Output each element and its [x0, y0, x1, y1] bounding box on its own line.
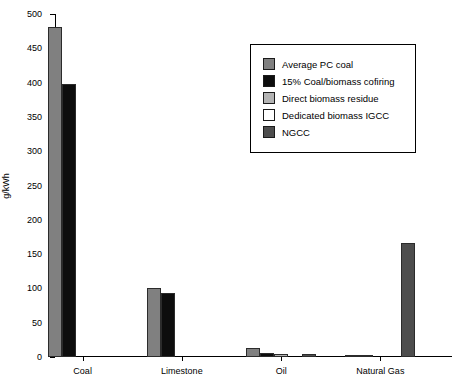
legend-swatch-icon: [263, 109, 275, 121]
legend-item-label: NGCC: [282, 127, 310, 138]
legend-entries: Average PC coal15% Coal/biomass cofiring…: [263, 56, 394, 141]
bar: [48, 27, 62, 357]
legend-swatch-icon: [263, 126, 275, 138]
x-axis-tick-label: Natural Gas: [356, 366, 404, 376]
bar-chart: g/kWh 050100150200250300350400450500 Coa…: [0, 0, 462, 389]
y-axis-tick-label: 500: [27, 9, 42, 19]
legend-swatch-icon: [263, 58, 275, 70]
legend-item: NGCC: [263, 124, 394, 140]
bar: [260, 353, 274, 357]
y-axis-tick-label: 450: [27, 43, 42, 53]
x-axis-tick: [281, 357, 282, 361]
y-axis-tick-label: 400: [27, 78, 42, 88]
legend-item-label: Direct biomass residue: [282, 93, 379, 104]
legend-item: Direct biomass residue: [263, 90, 394, 106]
x-axis-tick-label: Oil: [276, 366, 287, 376]
y-axis-tick-label: 50: [32, 318, 42, 328]
y-axis-tick: 500: [50, 14, 55, 15]
bar: [161, 293, 175, 357]
y-axis-title: g/kWh: [1, 173, 11, 199]
bar: [246, 348, 260, 357]
y-axis-tick-label: 250: [27, 181, 42, 191]
legend-item-label: Dedicated biomass IGCC: [282, 110, 389, 121]
y-axis-tick-label: 350: [27, 112, 42, 122]
legend-item: Dedicated biomass IGCC: [263, 107, 394, 123]
legend-item-label: Average PC coal: [282, 59, 353, 70]
x-axis-tick: [83, 357, 84, 361]
y-axis-tick-label: 0: [37, 352, 42, 362]
bar: [345, 355, 359, 357]
bar: [147, 288, 161, 357]
legend-item: Average PC coal: [263, 56, 394, 72]
y-axis-tick-label: 200: [27, 215, 42, 225]
legend-item: 15% Coal/biomass cofiring: [263, 73, 394, 89]
chart-legend: Average PC coal15% Coal/biomass cofiring…: [250, 44, 416, 153]
bar: [62, 84, 76, 357]
legend-swatch-icon: [263, 75, 275, 87]
legend-item-label: 15% Coal/biomass cofiring: [282, 76, 394, 87]
x-axis-tick-label: Coal: [73, 366, 92, 376]
x-axis-tick: [182, 357, 183, 361]
y-axis-tick-label: 100: [27, 283, 42, 293]
bar: [302, 354, 316, 357]
legend-swatch-icon: [263, 92, 275, 104]
x-axis-tick-label: Limestone: [161, 366, 203, 376]
y-axis-tick: 0: [50, 357, 55, 358]
y-axis-tick-label: 150: [27, 249, 42, 259]
bar: [401, 243, 415, 357]
y-axis-tick-label: 300: [27, 146, 42, 156]
x-axis-tick: [380, 357, 381, 361]
bar: [359, 355, 373, 357]
